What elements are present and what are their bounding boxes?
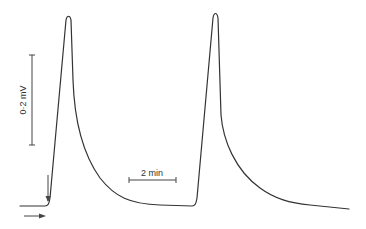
vertical-scale-bar: 0·2 mV	[18, 55, 35, 145]
horizontal-scale-bar: 2 min	[129, 168, 176, 183]
horizontal-scale-label: 2 min	[141, 168, 163, 178]
recording-trace	[20, 14, 349, 210]
recording-figure: 0·2 mV 2 min	[0, 0, 366, 229]
arrow-right-icon	[24, 214, 46, 219]
vertical-scale-label: 0·2 mV	[18, 85, 28, 114]
